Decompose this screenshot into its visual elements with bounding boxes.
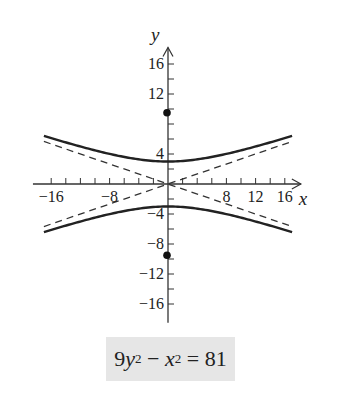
y-tick-label: −8 <box>147 235 164 252</box>
y-tick-label: 16 <box>148 55 164 72</box>
x-tick-label: −8 <box>101 188 118 205</box>
y-tick-label: −16 <box>139 295 164 312</box>
y-axis-label: y <box>149 24 160 45</box>
equation-coef: 9 <box>114 346 125 372</box>
equation-var-y: y <box>125 346 135 372</box>
x-tick-label: 8 <box>222 188 230 205</box>
focus-point <box>163 109 171 117</box>
x-tick-label: 16 <box>277 188 293 205</box>
focus-point <box>163 251 171 259</box>
x-tick-label: 12 <box>248 188 264 205</box>
equation-var-x: x <box>165 346 175 372</box>
axes <box>33 48 301 323</box>
y-tick-label: −4 <box>147 205 164 222</box>
y-tick-label: −12 <box>139 265 164 282</box>
equation-rhs: = 81 <box>181 346 226 372</box>
tick-labels: −16−88121616124−4−8−12−16xy <box>39 24 308 312</box>
equation-label: 9y2 − x2 = 81 <box>106 337 235 381</box>
x-axis-label: x <box>298 188 308 209</box>
x-tick-label: −16 <box>39 188 64 205</box>
hyperbola-plot: −16−88121616124−4−8−12−16xy <box>0 0 340 330</box>
equation-minus: − <box>142 346 165 372</box>
y-tick-label: 12 <box>148 85 164 102</box>
y-tick-label: 4 <box>156 145 164 162</box>
